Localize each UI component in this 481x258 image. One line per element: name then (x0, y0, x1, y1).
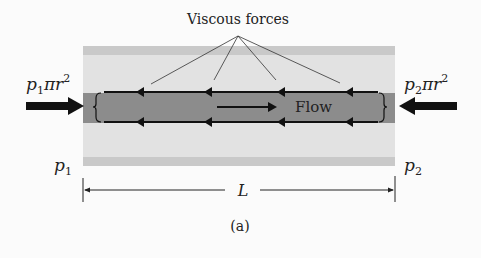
left-force-label: p1πr2 (26, 72, 70, 97)
figure-caption: (a) (230, 218, 249, 234)
right-pressure-label: p2 (404, 155, 422, 178)
right-force-arrow-icon (399, 97, 415, 115)
flow-label: Flow (295, 98, 332, 116)
left-force-arrow-icon (68, 97, 84, 115)
right-force-label: p2πr2 (404, 72, 448, 97)
tube-top-wall (83, 46, 395, 55)
right-force-arrow-shaft (413, 102, 457, 110)
tube-bottom-wall (83, 157, 395, 166)
dimension-arrowhead-right-icon (388, 188, 394, 193)
poiseuille-flow-diagram: Flow Viscous forces p1πr2 p2πr2 p1 p2 L … (0, 0, 481, 258)
left-force-arrow-shaft (26, 102, 70, 110)
tube-interior-lower (83, 123, 395, 157)
length-label: L (237, 181, 249, 200)
dimension-arrowhead-left-icon (84, 188, 90, 193)
tube-interior-upper (83, 55, 395, 93)
viscous-forces-label: Viscous forces (186, 11, 289, 27)
left-pressure-label: p1 (54, 155, 72, 178)
